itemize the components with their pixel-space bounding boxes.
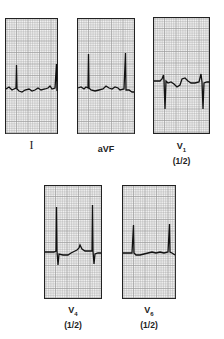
- ecg-strip-lead-V6: [122, 185, 176, 299]
- ecg-strip-lead-V4: [44, 185, 102, 299]
- lead-label-I: I: [5, 140, 58, 151]
- lead-label-V6: V6 (1/2): [122, 305, 176, 331]
- ecg-grid: [5, 18, 58, 134]
- lead-label-V4: V4 (1/2): [44, 305, 102, 331]
- ecg-grid: [77, 18, 135, 134]
- ecg-grid: [153, 17, 210, 134]
- lead-label-aVF: aVF: [77, 144, 135, 155]
- lead-label-V1: V1 (1/2): [153, 141, 210, 167]
- ecg-grid: [44, 185, 102, 299]
- ecg-strip-lead-aVF: [77, 18, 135, 134]
- ecg-grid: [122, 185, 176, 299]
- ecg-strip-lead-I: [5, 18, 58, 134]
- ecg-strip-lead-V1: [153, 17, 210, 134]
